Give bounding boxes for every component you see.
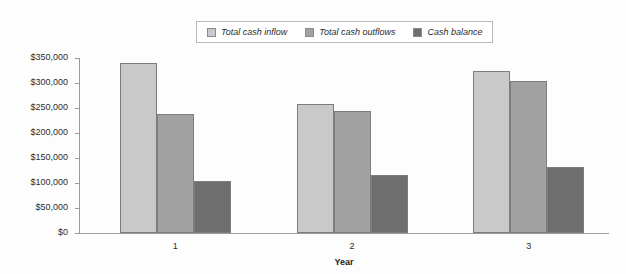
y-axis-tick: $200,000 xyxy=(75,133,79,134)
bar xyxy=(547,167,584,234)
bar-chart: Total cash inflow Total cash outflows Ca… xyxy=(0,0,626,274)
y-axis-tick-label: $50,000 xyxy=(35,202,68,213)
legend-swatch-icon-series-0 xyxy=(207,28,216,37)
y-axis-tick: $50,000 xyxy=(75,208,79,209)
y-axis-tick-label: $0 xyxy=(58,227,68,238)
y-axis-tick: $350,000 xyxy=(75,58,79,59)
bar xyxy=(371,175,408,234)
x-axis-category-label: 3 xyxy=(473,241,584,251)
y-axis-line xyxy=(79,58,80,234)
y-axis-tick: $0 xyxy=(75,233,79,234)
bar xyxy=(157,114,194,233)
y-axis-tick: $100,000 xyxy=(75,183,79,184)
bar xyxy=(297,104,334,233)
legend-swatch-icon-series-1 xyxy=(305,28,314,37)
bar-group xyxy=(473,58,584,233)
legend-item-total-cash-inflow: Total cash inflow xyxy=(207,28,287,37)
y-axis-tick-label: $100,000 xyxy=(30,177,68,188)
y-axis-tick-label: $350,000 xyxy=(30,52,68,63)
plot-area: $0$50,000$100,000$150,000$200,000$250,00… xyxy=(79,58,609,233)
bar xyxy=(510,81,547,234)
x-axis-category-label: 1 xyxy=(120,241,231,251)
y-axis-tick: $250,000 xyxy=(75,108,79,109)
bar-group xyxy=(297,58,408,233)
legend-swatch-icon-series-2 xyxy=(413,28,422,37)
x-axis-category-label: 2 xyxy=(297,241,408,251)
legend-item-cash-balance: Cash balance xyxy=(413,28,482,37)
bar-group xyxy=(120,58,231,233)
legend-label-series-0: Total cash inflow xyxy=(221,28,287,37)
x-axis-title: Year xyxy=(79,257,609,267)
y-axis-tick: $300,000 xyxy=(75,83,79,84)
x-axis-line xyxy=(79,233,609,234)
bar xyxy=(334,111,371,233)
y-axis-tick: $150,000 xyxy=(75,158,79,159)
bar xyxy=(194,181,231,233)
legend-item-total-cash-outflows: Total cash outflows xyxy=(305,28,395,37)
chart-legend: Total cash inflow Total cash outflows Ca… xyxy=(196,21,493,43)
legend-label-series-1: Total cash outflows xyxy=(319,28,395,37)
y-axis-tick-label: $250,000 xyxy=(30,102,68,113)
y-axis-tick-label: $300,000 xyxy=(30,77,68,88)
bar xyxy=(473,71,510,233)
bar xyxy=(120,63,157,233)
y-axis-tick-label: $200,000 xyxy=(30,127,68,138)
legend-label-series-2: Cash balance xyxy=(427,28,482,37)
y-axis-tick-label: $150,000 xyxy=(30,152,68,163)
